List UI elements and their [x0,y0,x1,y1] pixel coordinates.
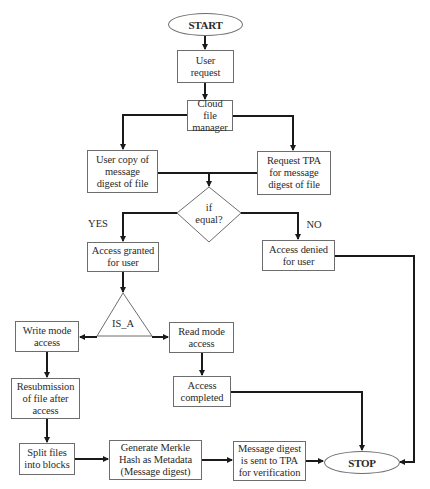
access-granted-box: Access granted for user [87,242,159,272]
request-tpa-box: Request TPA for message digest of file [257,151,331,195]
start-label: START [189,19,223,31]
read-mode-box: Read mode access [169,322,234,353]
stop-terminal: STOP [324,451,400,474]
access-denied-box: Access denied for user [262,240,335,271]
cloud-file-manager-box: Cloud file manager [187,100,233,131]
flowchart-canvas: START STOP User request Cloud file manag… [0,0,430,489]
digest-sent-box: Message digest is sent to TPA for verifi… [233,441,306,481]
split-files-box: Split files into blocks [19,443,75,475]
write-mode-box: Write mode access [15,321,79,352]
decision-label: if equal? [189,202,229,226]
user-copy-digest-box: User copy of message digest of file [87,150,158,193]
yes-label: YES [86,218,110,229]
access-completed-box: Access completed [173,376,231,407]
resubmission-box: Resubmission of file after access [11,378,80,419]
is-a-label: IS_A [106,318,140,330]
start-terminal: START [168,13,243,36]
user-request-box: User request [177,50,234,83]
stop-label: STOP [348,457,375,469]
no-label: NO [304,219,324,230]
generate-merkle-box: Generate Merkle Hash as Metadata (Messag… [109,440,202,480]
